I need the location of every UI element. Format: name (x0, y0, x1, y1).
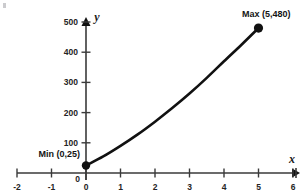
x-tick-labels: -2 -1 0 1 2 3 4 5 6 (13, 182, 295, 192)
y-axis-label: y (92, 10, 100, 24)
x-tick-label-1: 1 (118, 182, 123, 192)
min-point-marker (82, 161, 90, 169)
data-curve (86, 28, 259, 165)
y-tick-label-200: 200 (64, 108, 78, 118)
y-tick-label-400: 400 (64, 47, 78, 57)
x-axis (17, 166, 300, 180)
x-tick-label--2: -2 (13, 182, 21, 192)
y-tick-label-0: 0 (75, 174, 80, 184)
y-axis (82, 17, 91, 180)
x-axis-label: x (288, 152, 295, 166)
max-point-marker (254, 23, 263, 32)
x-tick-label--1: -1 (48, 182, 56, 192)
min-point-label: Min (0,25) (38, 149, 80, 159)
coordinate-plot: -2 -1 0 1 2 3 4 5 6 x 500 400 300 200 10… (0, 0, 306, 193)
y-tick-label-100: 100 (64, 138, 78, 148)
x-tick-label-2: 2 (153, 182, 158, 192)
x-tick-label-6: 6 (291, 182, 296, 192)
max-point-label: Max (5,480) (242, 9, 291, 19)
y-tick-label-500: 500 (64, 17, 78, 27)
chart-figure: -2 -1 0 1 2 3 4 5 6 x 500 400 300 200 10… (0, 0, 306, 193)
x-tick-label-5: 5 (256, 182, 261, 192)
x-tick-label-3: 3 (187, 182, 192, 192)
x-tick-label-0: 0 (84, 182, 89, 192)
x-tick-label-4: 4 (222, 182, 227, 192)
y-tick-label-300: 300 (64, 77, 78, 87)
